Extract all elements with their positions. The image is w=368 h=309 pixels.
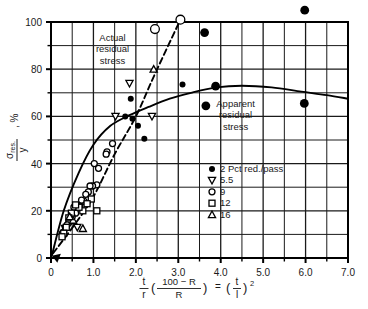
y-axis-tick-label: 100 xyxy=(25,17,42,28)
data-point-filled-circle xyxy=(128,96,134,102)
data-point-square xyxy=(59,234,65,240)
chart-background xyxy=(0,0,368,309)
data-point-filled-circle xyxy=(129,116,135,122)
annotation-actual-residual-stress: stress xyxy=(100,55,126,66)
annotation-actual-residual-stress: residual xyxy=(96,43,129,54)
data-point-filled-circle xyxy=(211,82,220,91)
data-point-filled-circle xyxy=(201,101,210,110)
y-axis-tick-label: 40 xyxy=(31,159,43,170)
data-point-filled-circle xyxy=(200,28,209,37)
y-axis-tick-label: 0 xyxy=(36,253,42,264)
y-axis-tick-label: 60 xyxy=(31,111,43,122)
x-axis-tick-label: 0 xyxy=(48,267,54,278)
x-label-frac-t-over-l-numerator: t xyxy=(236,276,239,287)
annotation-actual-residual-stress: Actual xyxy=(99,32,125,43)
data-point-square xyxy=(73,202,79,208)
legend-label-4: 16 xyxy=(220,209,231,220)
data-point-open-circle xyxy=(209,189,215,195)
x-label-paren-open: ( xyxy=(151,280,156,295)
data-point-square xyxy=(209,200,215,206)
data-point-open-circle xyxy=(91,161,97,167)
legend-label-2: 9 xyxy=(220,186,225,197)
y-axis-tick-label: 80 xyxy=(31,64,43,75)
data-point-filled-circle xyxy=(300,99,309,108)
data-point-square xyxy=(94,208,100,214)
x-label-paren-close: ) xyxy=(203,280,207,295)
data-point-open-circle xyxy=(87,183,93,189)
data-point-filled-circle xyxy=(180,82,186,88)
data-point-filled-circle xyxy=(300,6,309,15)
legend-label-0: 2 Pct red./pass xyxy=(220,163,284,174)
data-point-open-circle xyxy=(110,141,116,147)
data-point-square xyxy=(84,201,90,207)
x-label-paren2-open: ( xyxy=(226,280,231,295)
data-point-filled-circle xyxy=(141,136,147,142)
legend-label-3: 12 xyxy=(220,197,231,208)
x-axis-tick-label: 1.0 xyxy=(86,267,100,278)
y-axis-label-y: y xyxy=(17,148,28,153)
annotation-apparent-residual-stress: residual xyxy=(219,109,252,120)
data-point-open-circle xyxy=(176,15,185,24)
x-label-frac-100R-over-R-numerator: 100 − R xyxy=(162,276,196,287)
residual-stress-scatter-chart: 01.02.03.04.05.06.07.0020406080100Actual… xyxy=(0,0,368,309)
data-point-open-circle xyxy=(103,151,109,157)
data-point-filled-circle xyxy=(209,166,215,172)
x-axis-tick-label: 5.0 xyxy=(256,267,270,278)
x-label-frac-t-over-r-numerator: t xyxy=(143,276,146,287)
x-axis-tick-label: 2.0 xyxy=(129,267,143,278)
data-point-square xyxy=(63,224,69,230)
x-axis-tick-label: 4.0 xyxy=(214,267,228,278)
y-axis-label-unit: , % xyxy=(9,113,20,128)
data-point-open-circle xyxy=(151,25,160,34)
data-point-filled-circle xyxy=(122,113,128,119)
chart-figure: 01.02.03.04.05.06.07.0020406080100Actual… xyxy=(0,0,368,309)
annotation-apparent-residual-stress: Apparent xyxy=(216,98,255,109)
data-point-filled-circle xyxy=(135,123,141,129)
x-label-exponent: 2 xyxy=(250,279,254,288)
x-label-frac-100R-over-R-denominator: R xyxy=(176,289,183,300)
y-axis-tick-label: 20 xyxy=(31,206,43,217)
x-label-frac-t-over-l-denominator: l xyxy=(236,289,238,300)
x-label-paren2-close: ) xyxy=(243,280,247,295)
x-label-equals: = xyxy=(215,281,221,292)
x-axis-tick-label: 6.0 xyxy=(299,267,313,278)
legend-label-1: 5.5 xyxy=(220,174,233,185)
x-axis-tick-label: 7.0 xyxy=(341,267,355,278)
annotation-apparent-residual-stress: stress xyxy=(223,121,249,132)
